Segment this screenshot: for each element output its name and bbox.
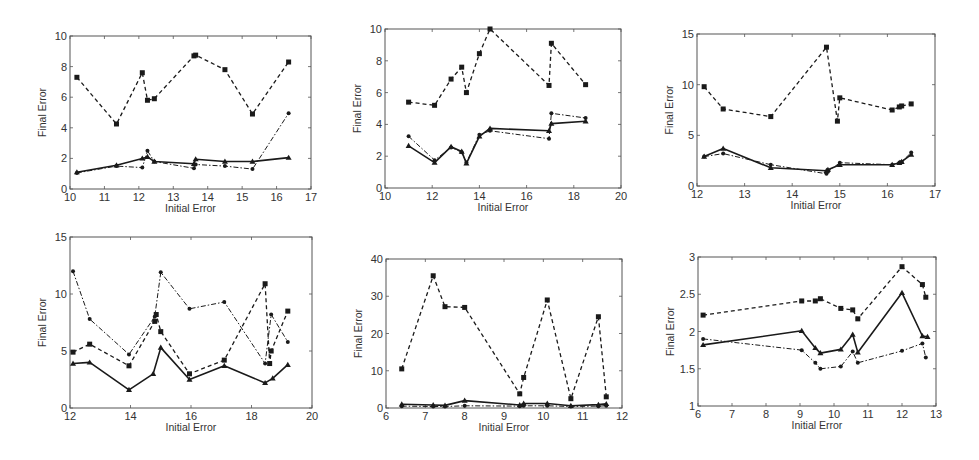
- y-tick-label: 10: [682, 79, 694, 91]
- chart-top-right: 121314151617051015Initial ErrorFinal Err…: [663, 28, 941, 211]
- square-marker: [855, 316, 860, 321]
- axes-box: [385, 29, 621, 188]
- square-marker: [721, 106, 726, 111]
- y-tick-label: 2: [689, 326, 695, 338]
- square-marker: [140, 70, 145, 75]
- x-tick-label: 14: [124, 410, 136, 422]
- y-tick-label: 5: [688, 129, 694, 141]
- x-tick-label: 18: [245, 410, 257, 422]
- y-tick-label: 4: [376, 118, 382, 130]
- figure-grid: 10111213141516170246810Initial ErrorFina…: [0, 0, 979, 460]
- dot-marker: [818, 367, 822, 371]
- x-tick-label: 15: [236, 191, 248, 203]
- y-tick-label: 6: [376, 87, 382, 99]
- series-dashdot-dots: [702, 151, 913, 176]
- square-marker: [449, 77, 454, 82]
- x-axis-label: Initial Error: [166, 421, 217, 433]
- square-marker: [702, 84, 707, 89]
- dot-marker: [152, 159, 156, 163]
- x-tick-label: 8: [763, 408, 769, 420]
- dot-marker: [522, 404, 526, 408]
- series-solid-triangles: [70, 345, 291, 392]
- dot-marker: [900, 349, 904, 353]
- series-dashed-squares: [701, 264, 929, 321]
- square-marker: [838, 306, 843, 311]
- square-marker: [818, 296, 823, 301]
- square-marker: [604, 394, 609, 399]
- dot-marker: [114, 164, 118, 168]
- square-marker: [799, 298, 804, 303]
- square-marker: [837, 95, 842, 100]
- dot-marker: [269, 313, 273, 317]
- square-marker: [596, 314, 601, 319]
- triangle-marker: [899, 290, 905, 295]
- dot-marker: [140, 166, 144, 170]
- x-axis-label: Initial Error: [165, 202, 216, 214]
- y-tick-label: 15: [55, 231, 67, 243]
- series-dashdot-dots: [71, 269, 290, 365]
- square-marker: [813, 298, 818, 303]
- square-marker: [477, 51, 482, 56]
- x-tick-label: 6: [383, 410, 389, 422]
- dot-marker: [839, 365, 843, 369]
- dot-marker: [443, 405, 447, 409]
- square-marker: [126, 363, 131, 368]
- dot-marker: [250, 167, 254, 171]
- y-tick-label: 0: [377, 402, 383, 414]
- square-marker: [71, 350, 76, 355]
- square-marker: [406, 100, 411, 105]
- y-tick-label: 2.5: [680, 288, 695, 300]
- x-axis-label: Initial Error: [791, 199, 842, 211]
- dot-marker: [286, 340, 290, 344]
- dot-marker: [194, 163, 198, 167]
- dot-marker: [431, 405, 435, 409]
- series-dashdot-dots: [701, 337, 928, 371]
- dot-marker: [477, 133, 481, 137]
- dot-marker: [223, 164, 227, 168]
- y-tick-label: 5: [61, 345, 67, 357]
- y-tick-label: 8: [61, 61, 67, 73]
- square-marker: [285, 309, 290, 314]
- x-tick-label: 12: [426, 190, 438, 202]
- dot-marker: [851, 350, 855, 354]
- square-marker: [443, 304, 448, 309]
- square-marker: [193, 53, 198, 58]
- dot-marker: [463, 404, 467, 408]
- square-marker: [114, 121, 119, 126]
- square-marker: [263, 281, 268, 286]
- dot-marker: [187, 307, 191, 311]
- axes-box: [698, 257, 936, 406]
- chart-top-middle: 1012141618200246810Initial ErrorFinal Er…: [351, 23, 627, 213]
- square-marker: [909, 101, 914, 106]
- square-marker: [222, 358, 227, 363]
- square-marker: [835, 119, 840, 124]
- dot-marker: [549, 111, 553, 115]
- x-tick-label: 16: [881, 188, 893, 200]
- dot-marker: [826, 170, 830, 174]
- dot-marker: [464, 161, 468, 165]
- square-marker: [521, 375, 526, 380]
- x-tick-label: 10: [537, 410, 549, 422]
- triangle-marker: [150, 371, 156, 376]
- square-marker: [431, 273, 436, 278]
- series-dashed-squares: [399, 273, 609, 401]
- series-solid-triangles: [74, 154, 292, 175]
- square-marker: [152, 319, 157, 324]
- dot-marker: [433, 158, 437, 162]
- axes-box: [386, 259, 622, 408]
- dot-marker: [222, 300, 226, 304]
- dot-marker: [192, 166, 196, 170]
- dot-marker: [584, 116, 588, 120]
- x-tick-label: 6: [695, 408, 701, 420]
- triangle-marker: [285, 362, 291, 367]
- x-axis-label: Initial Error: [792, 419, 843, 431]
- square-marker: [568, 396, 573, 401]
- square-marker: [920, 282, 925, 287]
- axes-box: [70, 237, 312, 408]
- triangle-marker: [850, 331, 856, 336]
- dot-marker: [88, 317, 92, 321]
- y-tick-label: 6: [61, 91, 67, 103]
- square-marker: [187, 371, 192, 376]
- x-tick-label: 8: [462, 410, 468, 422]
- y-axis-label: Final Error: [351, 83, 363, 133]
